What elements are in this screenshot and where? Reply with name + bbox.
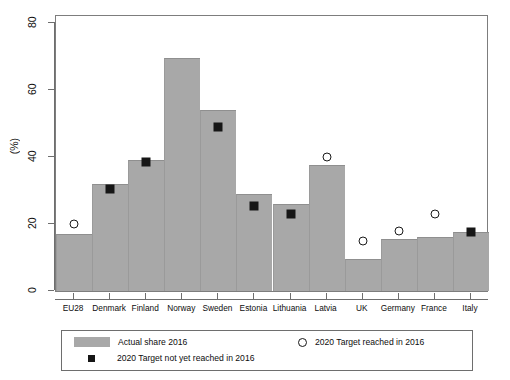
legend-label-target-reached: 2020 Target reached in 2016 (315, 337, 424, 347)
marker-filled-square-estonia (250, 201, 259, 210)
y-tick-label-20: 20 (26, 212, 48, 234)
x-tick-france (434, 293, 435, 299)
y-tick-20 (48, 223, 54, 224)
x-tick-sweden (217, 293, 218, 299)
legend-entry-target-reached: 2020 Target reached in 2016 (298, 337, 424, 347)
x-tick-label-uk: UK (356, 303, 368, 313)
y-axis-title: (%) (8, 138, 20, 154)
bar-chart-figure: (%) 020406080 EU28DenmarkFinlandNorwaySw… (0, 0, 510, 380)
x-tick-denmark (109, 293, 110, 299)
x-axis-line (55, 299, 488, 300)
x-tick-eu28 (73, 293, 74, 299)
x-tick-label-sweden: Sweden (202, 303, 232, 313)
y-tick-label-60: 60 (26, 78, 48, 100)
chart-legend: Actual share 2016 2020 Target not yet re… (61, 330, 473, 371)
marker-filled-square-denmark (106, 184, 115, 193)
bar-denmark (92, 184, 128, 291)
x-tick-label-estonia: Estonia (240, 303, 268, 313)
y-tick-label-0: 0 (26, 279, 48, 301)
x-tick-latvia (326, 293, 327, 299)
bar-finland (128, 160, 164, 291)
y-tick-label-40: 40 (26, 145, 48, 167)
x-tick-label-latvia: Latvia (315, 303, 337, 313)
x-tick-germany (398, 293, 399, 299)
bar-latvia (309, 165, 345, 291)
bar-norway (164, 58, 200, 291)
marker-open-circle-latvia (322, 153, 331, 162)
filled-square-icon (88, 355, 95, 362)
x-tick-label-norway: Norway (167, 303, 195, 313)
bar-france (417, 237, 453, 291)
plot-area (55, 15, 488, 292)
bar-swatch-icon (74, 337, 110, 347)
marker-open-circle-germany (394, 226, 403, 235)
x-tick-label-denmark: Denmark (92, 303, 126, 313)
bar-sweden (200, 110, 236, 291)
y-tick-60 (48, 89, 54, 90)
marker-open-circle-france (430, 209, 439, 218)
y-tick-label-80: 80 (26, 11, 48, 33)
x-tick-uk (362, 293, 363, 299)
x-tick-label-germany: Germany (381, 303, 415, 313)
x-tick-label-italy: Italy (462, 303, 477, 313)
x-tick-label-eu28: EU28 (63, 303, 84, 313)
bar-eu28 (56, 234, 92, 291)
x-tick-italy (470, 293, 471, 299)
marker-filled-square-sweden (214, 122, 223, 131)
legend-entry-actual-share: Actual share 2016 (74, 337, 187, 347)
x-tick-label-lithuania: Lithuania (273, 303, 307, 313)
legend-label-actual-share: Actual share 2016 (118, 337, 187, 347)
open-circle-icon (298, 338, 307, 347)
marker-open-circle-eu28 (70, 220, 79, 229)
x-tick-norway (181, 293, 182, 299)
y-tick-80 (48, 22, 54, 23)
legend-label-target-not-reached: 2020 Target not yet reached in 2016 (117, 353, 254, 363)
bar-uk (345, 259, 381, 291)
x-tick-finland (145, 293, 146, 299)
x-tick-lithuania (290, 293, 291, 299)
marker-open-circle-uk (358, 236, 367, 245)
x-tick-estonia (253, 293, 254, 299)
marker-filled-square-italy (466, 228, 475, 237)
y-tick-0 (48, 290, 54, 291)
legend-entry-target-not-reached: 2020 Target not yet reached in 2016 (74, 353, 254, 363)
x-tick-label-finland: Finland (132, 303, 159, 313)
y-tick-40 (48, 156, 54, 157)
marker-filled-square-lithuania (286, 209, 295, 218)
bar-germany (381, 239, 417, 291)
bar-italy (453, 232, 489, 291)
marker-filled-square-finland (142, 158, 151, 167)
plot-inner (56, 16, 487, 291)
x-tick-label-france: France (421, 303, 447, 313)
